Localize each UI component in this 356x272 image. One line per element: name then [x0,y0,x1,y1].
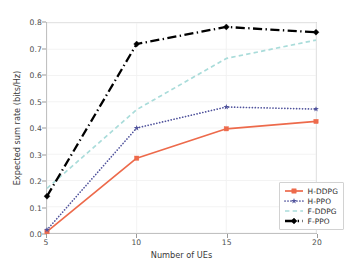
legend-label: H-DDPG [308,187,338,196]
line-chart-figure: Expected sum rate (bits/Hz) 0.00.10.20.3… [0,0,356,272]
legend-swatch-icon [284,196,304,206]
series-line [47,27,316,196]
legend-swatch-icon [284,186,304,196]
chart-legend: H-DDPGH-PPOF-DDPGF-PPO [279,182,344,230]
plot-area [46,22,317,234]
x-tick-mark [136,234,137,238]
y-tick-label: 0.7 [2,44,42,53]
y-tick-label: 0.3 [2,150,42,159]
legend-label: F-PPO [308,217,330,226]
x-axis-title: Number of UEs [46,250,317,260]
y-tick-mark [42,154,46,155]
y-tick-mark [42,101,46,102]
y-tick-mark [42,22,46,23]
legend-label: F-DDPG [308,207,337,216]
data-series-layer [47,23,316,233]
x-tick-label: 20 [297,238,337,247]
legend-label: H-PPO [308,197,331,206]
series-line [47,40,316,188]
series-line [47,121,316,231]
x-tick-label: 10 [116,238,156,247]
x-tick-mark [46,234,47,238]
y-tick-label: 0.1 [2,203,42,212]
y-tick-mark [42,207,46,208]
x-tick-mark [227,234,228,238]
y-tick-mark [42,128,46,129]
legend-item-h-ppo[interactable]: H-PPO [284,196,338,206]
y-tick-label: 0.6 [2,71,42,80]
legend-item-f-ppo[interactable]: F-PPO [284,216,338,226]
x-tick-mark [317,234,318,238]
y-tick-label: 0.8 [2,18,42,27]
y-tick-label: 0.4 [2,124,42,133]
y-tick-mark [42,181,46,182]
legend-item-h-ddpg[interactable]: H-DDPG [284,186,338,196]
y-tick-label: 0.2 [2,177,42,186]
legend-swatch-icon [284,206,304,216]
y-tick-label: 0.5 [2,97,42,106]
legend-item-f-ddpg[interactable]: F-DDPG [284,206,338,216]
y-tick-mark [42,48,46,49]
x-tick-label: 15 [207,238,247,247]
legend-swatch-icon [284,216,304,226]
x-tick-label: 5 [26,238,66,247]
y-tick-mark [42,75,46,76]
